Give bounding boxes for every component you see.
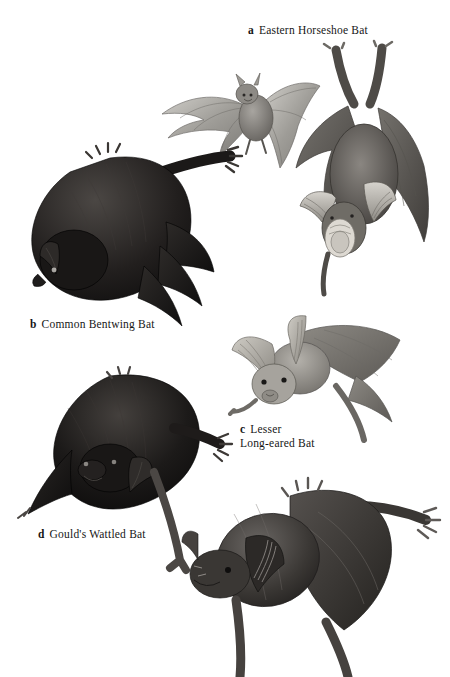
figure-b-key: b <box>30 318 37 330</box>
figure-a-title: Eastern Horseshoe Bat <box>259 24 368 36</box>
figure-b-bentwing-bat <box>14 138 264 328</box>
figure-d-caption: dGould's Wattled Bat <box>38 527 146 541</box>
figure-a-caption: aEastern Horseshoe Bat <box>248 23 368 37</box>
figure-unlabelled-bat <box>150 472 450 677</box>
figure-d-key: d <box>38 528 45 540</box>
figure-b-title: Common Bentwing Bat <box>42 318 155 330</box>
figure-b-caption: bCommon Bentwing Bat <box>30 317 155 331</box>
illustration-plate: aEastern Horseshoe Bat bCommon Bentwing … <box>0 0 450 677</box>
figure-c-title-line2: Long-eared Bat <box>240 437 315 449</box>
figure-c-caption: cLesser Long-eared Bat <box>240 422 360 450</box>
figure-a-hanging-bat <box>296 46 450 296</box>
figure-c-title-line1: Lesser <box>250 423 281 435</box>
figure-a-key: a <box>248 24 254 36</box>
figure-c-key: c <box>240 423 245 435</box>
figure-d-title: Gould's Wattled Bat <box>50 528 146 540</box>
